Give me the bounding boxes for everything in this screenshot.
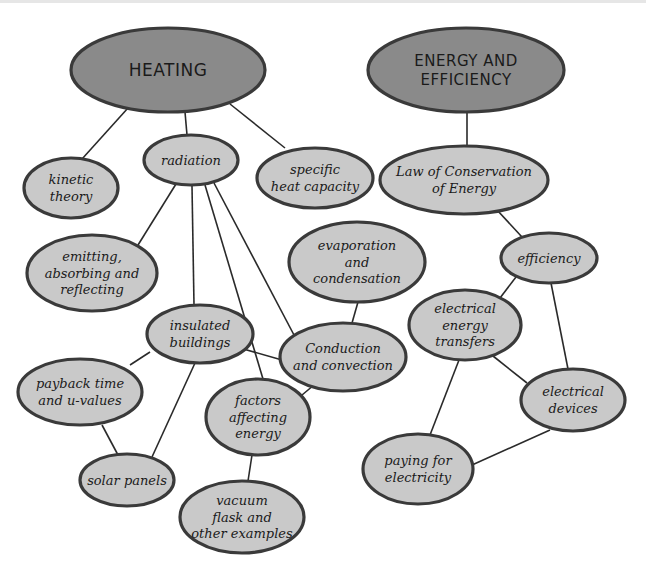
node-radiation: radiation bbox=[144, 135, 238, 185]
node-label: ENERGY AND bbox=[414, 52, 517, 70]
node-label: paying for bbox=[384, 453, 452, 468]
node-transfers: electricalenergytransfers bbox=[409, 290, 521, 360]
node-label: radiation bbox=[161, 153, 221, 168]
node-ellipse bbox=[368, 28, 564, 112]
node-label: EFFICIENCY bbox=[420, 71, 511, 89]
edge-heating-specific bbox=[230, 104, 285, 148]
node-factors: factorsaffectingenergy bbox=[206, 379, 310, 455]
node-payback: payback timeand u-values bbox=[18, 359, 142, 425]
node-label: condensation bbox=[313, 271, 401, 286]
edge-heating-kinetic bbox=[82, 108, 128, 159]
node-label: reflecting bbox=[60, 282, 124, 297]
node-label: and convection bbox=[293, 358, 393, 373]
node-label: buildings bbox=[170, 335, 231, 350]
node-label: efficiency bbox=[517, 251, 581, 266]
edge-law-efficiency bbox=[497, 210, 522, 237]
node-paying: paying forelectricity bbox=[363, 434, 473, 504]
node-label: transfers bbox=[435, 334, 495, 349]
node-kinetic: kinetictheory bbox=[24, 158, 118, 218]
edge-efficiency-transfers bbox=[500, 277, 516, 298]
node-label: solar panels bbox=[87, 473, 167, 488]
node-label: emitting, bbox=[62, 249, 122, 264]
edge-factors-vacuum bbox=[248, 455, 252, 481]
node-label: flask and bbox=[211, 510, 272, 525]
edge-insulated-solar bbox=[152, 363, 195, 457]
node-label: evaporation bbox=[318, 238, 396, 253]
node-specific: specificheat capacity bbox=[257, 148, 373, 208]
node-ellipse bbox=[280, 323, 406, 391]
node-label: electrical bbox=[542, 384, 604, 399]
node-label: electricity bbox=[385, 470, 452, 485]
node-ellipse bbox=[18, 359, 142, 425]
node-efficiency: efficiency bbox=[501, 233, 597, 283]
node-label: heat capacity bbox=[271, 179, 360, 194]
edge-transfers-devices bbox=[493, 356, 527, 383]
node-label: electrical bbox=[434, 301, 496, 316]
nodes-layer: HEATINGENERGY ANDEFFICIENCYkinetictheory… bbox=[18, 28, 625, 553]
edge-payback-solar bbox=[102, 425, 118, 455]
node-label: devices bbox=[548, 401, 597, 416]
node-label: and bbox=[345, 255, 369, 270]
node-label: energy bbox=[235, 426, 281, 441]
node-label: theory bbox=[50, 189, 93, 204]
node-label: vacuum bbox=[216, 493, 267, 508]
edge-radiation-emitting bbox=[138, 184, 176, 245]
node-ellipse bbox=[380, 146, 548, 214]
node-label: kinetic bbox=[49, 172, 94, 187]
node-label: and u-values bbox=[38, 393, 122, 408]
node-label: Conduction bbox=[305, 341, 381, 356]
edge-transfers-paying bbox=[430, 360, 459, 435]
node-devices: electricaldevices bbox=[521, 369, 625, 431]
node-label: of Energy bbox=[432, 181, 497, 196]
concept-map: HEATINGENERGY ANDEFFICIENCYkinetictheory… bbox=[0, 0, 646, 573]
node-label: Law of Conservation bbox=[395, 164, 532, 179]
edge-devices-paying bbox=[472, 430, 550, 465]
node-label: energy bbox=[442, 318, 488, 333]
edge-insulated-payback bbox=[130, 352, 150, 365]
node-ellipse bbox=[521, 369, 625, 431]
node-label: insulated bbox=[170, 318, 231, 333]
node-label: affecting bbox=[229, 410, 287, 425]
node-label: HEATING bbox=[129, 60, 208, 80]
node-law: Law of Conservationof Energy bbox=[380, 146, 548, 214]
node-evaporation: evaporationandcondensation bbox=[289, 222, 425, 302]
node-solar: solar panels bbox=[80, 454, 174, 506]
root-node-energy: ENERGY ANDEFFICIENCY bbox=[368, 28, 564, 112]
node-ellipse bbox=[24, 158, 118, 218]
node-emitting: emitting,absorbing andreflecting bbox=[27, 235, 157, 311]
node-label: factors bbox=[234, 393, 281, 408]
node-conduction: Conductionand convection bbox=[280, 323, 406, 391]
node-label: absorbing and bbox=[45, 266, 140, 281]
node-label: payback time bbox=[36, 376, 124, 391]
root-node-heating: HEATING bbox=[71, 28, 265, 112]
node-ellipse bbox=[363, 434, 473, 504]
node-ellipse bbox=[147, 305, 253, 363]
node-label: other examples bbox=[191, 526, 293, 541]
edge-heating-radiation bbox=[185, 112, 187, 135]
node-vacuum: vacuumflask andother examples bbox=[180, 481, 304, 553]
edge-evaporation-conduction bbox=[352, 302, 358, 323]
edge-radiation-insulated bbox=[192, 186, 194, 305]
node-insulated: insulatedbuildings bbox=[147, 305, 253, 363]
node-ellipse bbox=[257, 148, 373, 208]
node-label: specific bbox=[290, 162, 341, 177]
edge-efficiency-devices bbox=[551, 283, 568, 369]
